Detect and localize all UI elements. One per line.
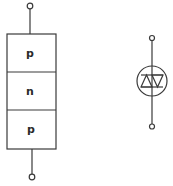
pnp-structure: p n p [7,3,56,180]
symbol-bottom-terminal [150,124,155,129]
diac-symbol [137,36,167,130]
layer-label-p-top: p [26,47,34,60]
top-terminal [27,3,33,9]
layer-label-p-bottom: p [27,123,35,136]
layer-label-n: n [26,85,34,98]
diac-diagram: p n p [0,0,173,186]
bottom-terminal [29,174,35,180]
symbol-top-terminal [150,36,155,41]
triangle-down-icon [152,75,163,87]
triangle-up-icon [141,75,152,87]
